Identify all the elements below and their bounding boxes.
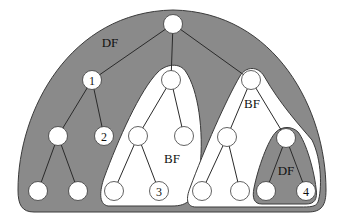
tree-node-bf1l1 (105, 182, 124, 201)
tree-node-dftop (277, 129, 296, 148)
tree-node-n4: 4 (297, 182, 316, 201)
node-circle (129, 127, 148, 146)
node-circle (242, 71, 261, 90)
node-circle (162, 71, 181, 90)
label-bf-right: BF (244, 96, 260, 111)
node-circle (175, 127, 194, 146)
node-circle (49, 127, 68, 146)
tree-node-bf2top (242, 71, 261, 90)
tree-node-bf2a (218, 128, 237, 147)
node-circle (105, 182, 124, 201)
search-strategy-diagram: 1234 DF BF BF DF (0, 0, 345, 224)
node-circle (218, 128, 237, 147)
label-bf-left: BF (164, 151, 180, 166)
tree-node-root (164, 15, 183, 34)
node-circle (193, 182, 212, 201)
tree-node-bf2l2 (231, 182, 250, 201)
tree-node-bf1top (162, 71, 181, 90)
node-circle (257, 182, 276, 201)
label-outer-df: DF (102, 35, 119, 50)
tree-node-n1: 1 (83, 71, 102, 90)
tree-node-la1 (29, 182, 48, 201)
diagram-svg: 1234 DF BF BF DF (0, 0, 345, 224)
tree-node-bf1b (175, 127, 194, 146)
label-inner-df: DF (278, 163, 295, 178)
node-circle (29, 182, 48, 201)
node-label: 1 (89, 74, 95, 88)
tree-node-bf2l1 (193, 182, 212, 201)
tree-node-n2: 2 (95, 127, 114, 146)
tree-node-l2a (49, 127, 68, 146)
node-circle (277, 129, 296, 148)
tree-node-n3: 3 (150, 182, 169, 201)
node-label: 4 (303, 185, 309, 199)
node-label: 3 (156, 185, 162, 199)
tree-node-la2 (69, 182, 88, 201)
node-circle (69, 182, 88, 201)
node-circle (231, 182, 250, 201)
tree-node-bf1a (129, 127, 148, 146)
node-label: 2 (101, 130, 107, 144)
tree-node-dfl1 (257, 182, 276, 201)
node-circle (164, 15, 183, 34)
